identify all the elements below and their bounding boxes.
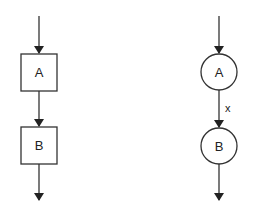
- circle-node-b: B: [201, 128, 237, 164]
- box-a-label: A: [35, 65, 44, 80]
- circle-node-a: A: [201, 54, 237, 90]
- circle-a-label: A: [215, 65, 224, 80]
- diagram-canvas: A B A x B: [0, 0, 256, 223]
- box-node-a: A: [21, 54, 57, 91]
- box-b-label: B: [35, 138, 44, 153]
- left-flow: A B: [21, 16, 57, 200]
- circle-b-label: B: [215, 139, 224, 154]
- box-node-b: B: [21, 127, 57, 164]
- edge-label-x: x: [225, 102, 231, 114]
- right-flow: A x B: [201, 16, 237, 200]
